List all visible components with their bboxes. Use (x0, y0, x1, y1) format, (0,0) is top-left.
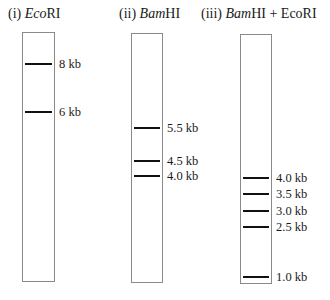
gel-lane-3 (240, 34, 272, 284)
band-size-label: 3.0 kb (276, 205, 307, 218)
dna-band (243, 177, 269, 179)
dna-band (243, 210, 269, 212)
band-size-label: 2.5 kb (276, 221, 307, 234)
band-size-label: 4.5 kb (167, 155, 198, 168)
dna-band (134, 175, 160, 177)
band-size-label: 4.0 kb (276, 172, 307, 185)
band-size-label: 6 kb (59, 106, 81, 119)
dna-band (243, 226, 269, 228)
gel-lane-2 (131, 33, 163, 283)
dna-band (243, 193, 269, 195)
band-size-label: 1.0 kb (276, 271, 307, 284)
lane-title-bamhi: (ii) BamHI (119, 6, 180, 22)
dna-band (25, 111, 52, 113)
band-size-label: 3.5 kb (276, 188, 307, 201)
dna-band (243, 276, 269, 278)
band-size-label: 4.0 kb (167, 170, 198, 183)
dna-band (134, 127, 160, 129)
band-size-label: 5.5 kb (167, 122, 198, 135)
band-size-label: 8 kb (59, 58, 81, 71)
gel-lane-1 (22, 32, 55, 282)
dna-band (134, 160, 160, 162)
lane-title-bamhi-ecori: (iii) BamHI + EcoRI (201, 6, 317, 22)
dna-band (25, 63, 52, 65)
lane-title-ecori: (i) EcoRI (8, 6, 60, 22)
